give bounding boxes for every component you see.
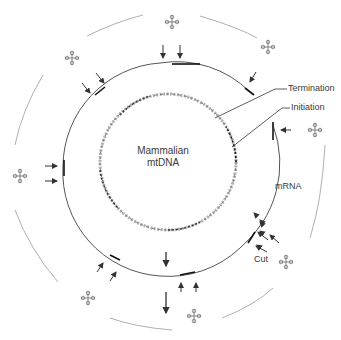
mrna-label: mRNA	[275, 182, 302, 191]
trna-icon	[165, 15, 179, 29]
cut-arrows	[45, 45, 291, 313]
initiation-label: Initiation	[291, 103, 325, 112]
trna-icon	[187, 309, 201, 323]
trna-icon	[65, 51, 79, 65]
cut-arrows-right	[256, 231, 279, 252]
mtdna-transcription-diagram	[0, 0, 341, 340]
trna-icon	[13, 169, 27, 183]
center-label-line1: Mammalian	[123, 146, 203, 156]
trna-icon	[279, 255, 293, 269]
center-label-line2: mtDNA	[123, 158, 203, 168]
cut-label: Cut	[254, 255, 268, 264]
trna-icon	[81, 291, 95, 305]
trna-icon	[308, 123, 322, 137]
termination-label: Termination	[288, 84, 335, 93]
trna-icon	[261, 40, 275, 54]
leader-lines	[215, 89, 290, 147]
center-label: Mammalian mtDNA	[123, 146, 203, 168]
